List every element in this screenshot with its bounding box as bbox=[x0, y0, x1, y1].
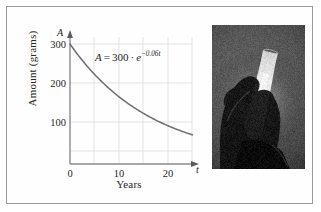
y-tick-label-200: 200 bbox=[40, 78, 66, 89]
equation-annotation: A=300·e−0.06t bbox=[95, 51, 160, 63]
x-tick-label-0: 0 bbox=[59, 168, 81, 179]
test-tube-photo bbox=[212, 25, 305, 169]
figure-frame: A t Amount (grams) Years 300 200 100 0 1… bbox=[6, 6, 313, 204]
test-tube-photo-canvas bbox=[212, 25, 305, 169]
equation-dot: · bbox=[128, 51, 136, 63]
y-axis-title: Amount (grams) bbox=[27, 14, 38, 124]
chart-plot-area: A t Amount (grams) Years 300 200 100 0 1… bbox=[7, 7, 207, 212]
x-axis-variable: t bbox=[196, 165, 199, 175]
figure-root: A t Amount (grams) Years 300 200 100 0 1… bbox=[0, 0, 321, 212]
x-axis-title: Years bbox=[93, 179, 165, 190]
x-tick-label-20: 20 bbox=[157, 168, 179, 179]
y-tick-label-100: 100 bbox=[40, 117, 66, 128]
y-axis bbox=[67, 30, 73, 164]
equation-coefficient: 300 bbox=[112, 51, 129, 63]
y-axis-variable: A bbox=[57, 28, 63, 38]
equation-equals: = bbox=[102, 51, 112, 63]
x-tick-label-10: 10 bbox=[108, 168, 130, 179]
equation-lhs: A bbox=[95, 51, 102, 63]
y-tick-label-300: 300 bbox=[40, 39, 66, 50]
x-axis bbox=[70, 161, 199, 167]
equation-exponent: −0.06t bbox=[141, 50, 160, 58]
